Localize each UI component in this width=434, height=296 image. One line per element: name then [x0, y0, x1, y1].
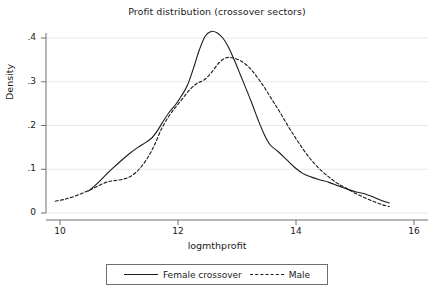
legend-label-male: Male	[289, 270, 310, 280]
legend-label-female-crossover: Female crossover	[163, 270, 242, 280]
y-tick-label: 0	[12, 207, 36, 217]
series-line-female-crossover	[88, 31, 389, 203]
series-line-male	[55, 57, 389, 206]
plot-area	[0, 0, 434, 296]
legend-line-solid-icon	[124, 274, 158, 276]
y-tick-label: .1	[12, 163, 36, 173]
data-series	[55, 31, 389, 206]
legend-item-female-crossover: Female crossover	[124, 270, 242, 280]
chart-container: Profit distribution (crossover sectors) …	[0, 0, 434, 296]
x-tick-label: 16	[399, 226, 429, 236]
axis-lines	[46, 33, 428, 220]
x-tick-label: 14	[281, 226, 311, 236]
y-tick-label: .3	[12, 76, 36, 86]
y-tick-label: .4	[12, 32, 36, 42]
x-tick-label: 12	[163, 226, 193, 236]
legend-item-male: Male	[250, 270, 310, 280]
chart-legend: Female crossover Male	[106, 264, 328, 285]
legend-line-dashed-icon	[250, 274, 284, 276]
axis-ticks	[41, 38, 414, 225]
y-tick-label: .2	[12, 120, 36, 130]
gridlines	[46, 38, 428, 213]
x-tick-label: 10	[45, 226, 75, 236]
